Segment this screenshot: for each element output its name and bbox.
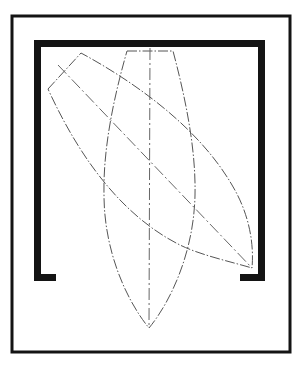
hull-diagram <box>0 0 305 367</box>
rotated-hull-centerline <box>58 65 252 268</box>
upright-hull-centerline <box>149 48 150 328</box>
outer-frame <box>12 16 290 352</box>
